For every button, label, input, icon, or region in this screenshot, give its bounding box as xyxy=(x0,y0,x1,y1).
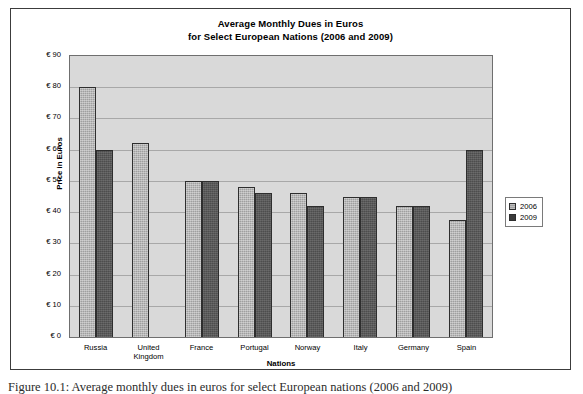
legend-item: 2009 xyxy=(509,212,537,223)
bar xyxy=(466,150,483,337)
bar xyxy=(132,143,149,337)
y-axis-tick-label: € 60 xyxy=(15,145,61,153)
bar xyxy=(238,187,255,337)
legend-swatch-icon xyxy=(509,214,516,221)
y-axis-tick-labels: € 90€ 80€ 70€ 60€ 50€ 40€ 30€ 20€ 10€ 0 xyxy=(15,55,65,336)
chart-title-line1: Average Monthly Dues in Euros xyxy=(218,18,364,29)
bar xyxy=(307,206,324,337)
y-axis-tick-label: € 50 xyxy=(15,176,61,184)
bar-group xyxy=(123,56,176,337)
bar xyxy=(255,193,272,337)
legend-item: 2006 xyxy=(509,201,537,212)
bar xyxy=(449,220,466,337)
x-axis-title: Nations xyxy=(69,359,493,368)
chart-title-line2: for Select European Nations (2006 and 20… xyxy=(11,30,570,43)
bar-group xyxy=(281,56,334,337)
plot-area xyxy=(69,55,493,338)
y-axis-tick-label: € 10 xyxy=(15,301,61,309)
legend-label: 2009 xyxy=(520,213,537,222)
y-axis-tick-label: € 40 xyxy=(15,207,61,215)
bar-groups xyxy=(70,56,492,337)
bar-group xyxy=(387,56,440,337)
y-axis-tick-label: € 70 xyxy=(15,113,61,121)
chart-figure-frame: Average Monthly Dues in Euros for Select… xyxy=(10,8,571,370)
bar xyxy=(343,197,360,338)
bar xyxy=(96,150,113,337)
bar xyxy=(360,197,377,338)
chart-title: Average Monthly Dues in Euros for Select… xyxy=(11,17,570,43)
legend-swatch-icon xyxy=(509,203,516,210)
bar-group xyxy=(439,56,492,337)
bar xyxy=(202,181,219,337)
figure-caption: Figure 10.1: Average monthly dues in eur… xyxy=(8,380,583,394)
bar xyxy=(79,87,96,337)
legend-label: 2006 xyxy=(520,202,537,211)
bar-group xyxy=(228,56,281,337)
bar xyxy=(185,181,202,337)
bar xyxy=(413,206,430,337)
y-axis-tick-label: € 0 xyxy=(15,332,61,340)
y-axis-tick-label: € 20 xyxy=(15,270,61,278)
bar-group xyxy=(334,56,387,337)
y-axis-tick-label: € 90 xyxy=(15,51,61,59)
bar xyxy=(290,193,307,337)
y-axis-tick-label: € 30 xyxy=(15,238,61,246)
bar-group xyxy=(176,56,229,337)
y-axis-tick-label: € 80 xyxy=(15,82,61,90)
chart-legend: 20062009 xyxy=(505,197,543,227)
bar xyxy=(396,206,413,337)
bar-group xyxy=(70,56,123,337)
